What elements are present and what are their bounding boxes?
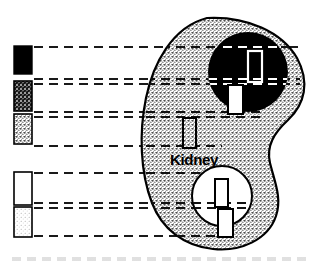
legend-swatch-black bbox=[14, 46, 32, 74]
marker-dark-edge bbox=[228, 85, 243, 114]
legend-swatch-light-speckled bbox=[14, 114, 32, 144]
marker-light-inner bbox=[215, 179, 228, 207]
kidney-diagram-canvas: Kidney bbox=[0, 0, 325, 262]
legend-swatch-pale-speckled bbox=[14, 207, 32, 237]
legend-swatch-group bbox=[14, 46, 32, 237]
kidney-label: Kidney bbox=[170, 151, 219, 168]
marker-stroma bbox=[183, 118, 196, 148]
legend-swatch-dark-speckled bbox=[14, 81, 32, 111]
marker-light-edge bbox=[218, 209, 233, 237]
kidney-diagram-figure: Kidney bbox=[0, 0, 325, 262]
legend-swatch-white bbox=[14, 172, 32, 205]
